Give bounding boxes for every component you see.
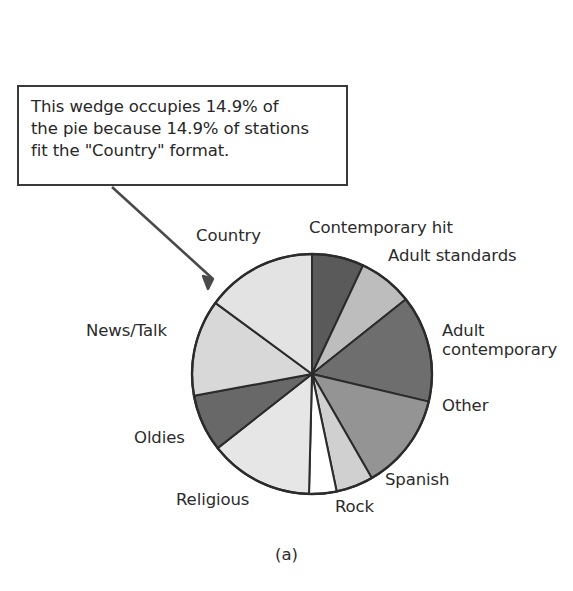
figure-caption: (a) [0, 545, 573, 564]
pie-label-other: Other [442, 396, 488, 415]
pie-label-oldies: Oldies [134, 428, 185, 447]
pie-label-adult-contemporary: Adult contemporary [442, 321, 557, 360]
pie-slices [192, 254, 432, 494]
pie-label-contemporary-hit: Contemporary hit [309, 218, 453, 237]
pie-label-adult-standards: Adult standards [388, 246, 517, 265]
pie-label-news-talk: News/Talk [86, 321, 167, 340]
pie-label-spanish: Spanish [385, 470, 449, 489]
pie-label-rock: Rock [335, 497, 374, 516]
pie-label-country: Country [196, 226, 261, 245]
pie-chart-figure: This wedge occupies 14.9% of the pie bec… [0, 0, 573, 591]
chart-canvas [0, 0, 573, 591]
pie-label-religious: Religious [176, 490, 249, 509]
